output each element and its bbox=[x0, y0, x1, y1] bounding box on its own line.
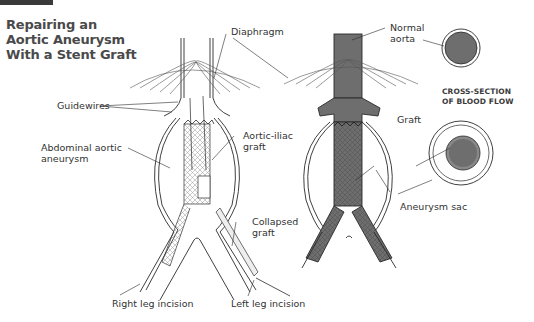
leader-lines bbox=[100, 28, 450, 296]
cross-section-title: CROSS-SECTION OF BLOOD FLOW bbox=[442, 87, 514, 107]
label-diaphragm: Diaphragm bbox=[231, 26, 284, 37]
label-guidewires: Guidewires bbox=[57, 100, 110, 111]
label-abdominal-aortic-aneurysm: Abdominal aortic aneurysm bbox=[41, 142, 122, 164]
right-aorta-diagram bbox=[284, 34, 418, 268]
label-aneurysm-sac: Aneurysm sac bbox=[400, 201, 467, 212]
label-graft: Graft bbox=[397, 114, 421, 125]
cross-section-normal bbox=[442, 29, 480, 67]
label-right-leg-incision: Right leg incision bbox=[112, 298, 194, 309]
diaphragm-left bbox=[130, 61, 260, 94]
label-aortic-iliac-graft: Aortic-iliac graft bbox=[243, 130, 293, 152]
label-normal-aorta: Normal aorta bbox=[390, 22, 424, 44]
label-collapsed-graft: Collapsed graft bbox=[252, 216, 298, 238]
label-left-leg-incision: Left leg incision bbox=[231, 298, 305, 309]
cross-section-graft bbox=[429, 121, 493, 185]
left-aorta-diagram bbox=[130, 38, 290, 300]
